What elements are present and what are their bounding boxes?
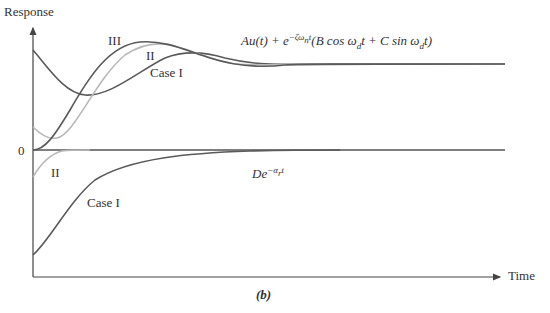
curve-ii-lower <box>33 150 90 177</box>
label-ii-upper: II <box>146 48 155 64</box>
figure-caption: (b) <box>256 287 271 303</box>
label-iii-upper: III <box>108 33 121 49</box>
zero-label: 0 <box>18 143 25 159</box>
curve-iii-upper <box>33 42 505 150</box>
curve-ii-upper <box>33 44 505 138</box>
curve-case-i-upper <box>33 50 505 95</box>
formula-upper: Au(t) + e−ζωnt(B cos ωdt + C sin ωdt) <box>241 32 432 51</box>
formula-lower: De−αrt <box>252 165 284 182</box>
label-case-i-upper: Case I <box>150 65 183 81</box>
x-axis-label: Time <box>508 268 535 284</box>
label-ii-lower: II <box>51 165 60 181</box>
curve-case-i-lower <box>33 150 340 255</box>
label-case-i-lower: Case I <box>87 195 120 211</box>
y-axis-label: Response <box>4 4 54 20</box>
